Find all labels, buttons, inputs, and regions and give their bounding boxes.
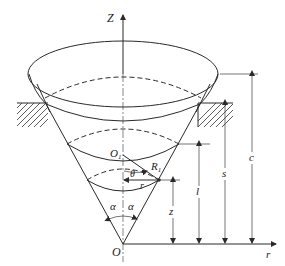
- svg-text:z: z: [168, 205, 174, 217]
- ground-left: [0, 103, 64, 127]
- r-label: r: [140, 180, 144, 191]
- z-axis-label: Z: [107, 11, 114, 25]
- dimension-c: c: [220, 74, 258, 243]
- svg-text:s: s: [222, 167, 226, 179]
- cone: [37, 84, 210, 244]
- theta-label: θ: [130, 168, 135, 179]
- svg-text:l: l: [196, 185, 199, 197]
- dimension-l: l: [179, 144, 210, 243]
- o1-label: O1: [110, 147, 121, 161]
- r-axis-label: r: [266, 248, 271, 260]
- svg-text:c: c: [249, 151, 254, 163]
- alpha-left-label: α: [110, 200, 116, 212]
- ground-right: [192, 103, 246, 127]
- cone-diagram: Z O1 R1 θ r α α O r: [0, 0, 285, 266]
- r1-label: R1: [150, 160, 161, 174]
- alpha-right-label: α: [128, 200, 134, 212]
- dimension-s: s: [221, 104, 230, 243]
- dimension-z: z: [159, 180, 180, 243]
- origin-label: O: [112, 245, 121, 259]
